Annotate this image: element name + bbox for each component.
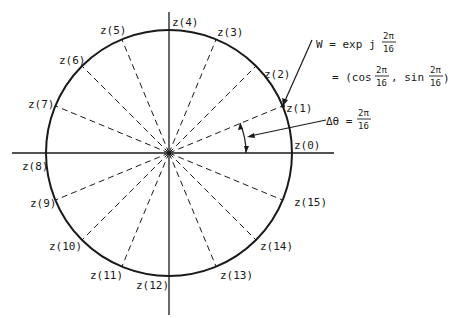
radius-line-2 bbox=[169, 66, 256, 153]
w-eq2-den1: 16 bbox=[376, 78, 387, 88]
point-labels: z(0)z(1)z(2)z(3)z(4)z(5)z(6)z(7)z(8)z(9)… bbox=[22, 16, 327, 292]
w-eq2-den2: 16 bbox=[430, 78, 441, 88]
point-label-z14: z(14) bbox=[260, 240, 293, 253]
point-label-z10: z(10) bbox=[49, 240, 82, 253]
dtheta-num: 2π bbox=[358, 108, 369, 118]
w-eq2-num2: 2π bbox=[430, 65, 441, 75]
w-frac-num: 2π bbox=[383, 31, 394, 41]
w-eq2-open: = (cos bbox=[332, 71, 372, 84]
radius-line-14 bbox=[169, 153, 256, 240]
radius-line-6 bbox=[82, 66, 169, 153]
unit-circle-diagram: z(0)z(1)z(2)z(3)z(4)z(5)z(6)z(7)z(8)z(9)… bbox=[0, 0, 451, 318]
w-eq2-close: ) bbox=[443, 72, 450, 85]
point-label-z0: z(0) bbox=[294, 139, 321, 152]
point-label-z13: z(13) bbox=[220, 269, 253, 282]
dtheta-lhs: Δθ = bbox=[326, 115, 353, 128]
point-label-z15: z(15) bbox=[294, 196, 327, 209]
point-label-z6: z(6) bbox=[59, 54, 86, 67]
dtheta-den: 16 bbox=[358, 121, 369, 131]
point-label-z9: z(9) bbox=[30, 197, 57, 210]
radius-line-10 bbox=[82, 153, 169, 240]
point-label-z7: z(7) bbox=[28, 98, 55, 111]
point-label-z4: z(4) bbox=[172, 16, 199, 29]
point-label-z12: z(12) bbox=[136, 279, 169, 292]
point-label-z5: z(5) bbox=[100, 24, 127, 37]
point-label-z11: z(11) bbox=[90, 269, 123, 282]
w-eq2-num1: 2π bbox=[376, 65, 387, 75]
w-frac-den: 16 bbox=[383, 44, 394, 54]
w-eq2-sep: , sin bbox=[391, 71, 424, 84]
point-label-z2: z(2) bbox=[264, 68, 291, 81]
point-label-z3: z(3) bbox=[217, 26, 244, 39]
w-definition-lhs: W = exp j bbox=[316, 38, 376, 51]
point-label-z8: z(8) bbox=[22, 160, 49, 173]
dtheta-leader-arrowhead-icon bbox=[247, 133, 255, 138]
point-label-z1: z(1) bbox=[286, 102, 313, 115]
